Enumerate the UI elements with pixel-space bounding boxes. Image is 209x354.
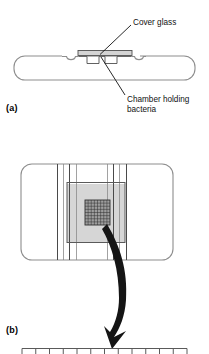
fine-counting-grid <box>85 200 110 225</box>
cover-glass <box>78 51 132 56</box>
chamber-well-right <box>105 57 117 64</box>
panel-label-b: (b) <box>6 325 18 335</box>
callout-chamber-holding-bacteria: Chamber holding bacteria <box>127 95 189 116</box>
ruler-ticks <box>22 349 187 354</box>
panel-a-drawing <box>0 0 209 150</box>
chamber-well-left <box>87 57 99 64</box>
microscope-slide-body <box>14 56 195 80</box>
callout-cover-glass: Cover glass <box>133 18 176 28</box>
panel-b-top-view <box>0 150 209 354</box>
panel-c-ruler-strip <box>0 340 209 354</box>
panel-b-drawing <box>0 150 209 354</box>
figure-counting-chamber: Cover glass Chamber holding bacteria (a) <box>0 0 209 354</box>
panel-a-cross-section: Cover glass Chamber holding bacteria <box>0 0 209 150</box>
panel-label-a: (a) <box>6 103 18 113</box>
